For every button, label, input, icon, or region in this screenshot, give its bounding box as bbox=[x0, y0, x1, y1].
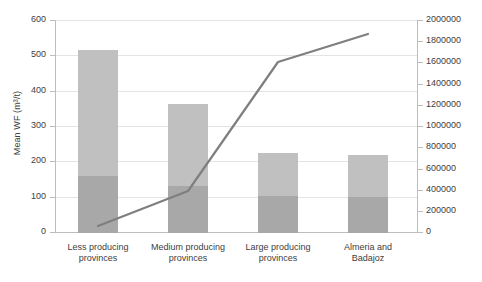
tickmark-right-200000 bbox=[417, 211, 423, 212]
ytick-label-right-1200000: 1200000 bbox=[426, 100, 461, 109]
tickmark-left-600 bbox=[50, 20, 56, 21]
ytick-label-left-100: 100 bbox=[8, 192, 46, 201]
ytick-label-left-600: 600 bbox=[8, 15, 46, 24]
y-axis-title-left: Mean WF (m³/t) bbox=[12, 68, 22, 178]
tickmark-right-600000 bbox=[417, 169, 423, 170]
xtick-label-medium-producing: Medium producing provinces bbox=[143, 242, 233, 264]
tickmark-right-400000 bbox=[417, 190, 423, 191]
bar-segment-lower-large-producing bbox=[258, 196, 298, 233]
ytick-label-right-1000000: 1000000 bbox=[426, 121, 461, 130]
xtick-label-large-producing: Large producing provinces bbox=[235, 242, 321, 264]
production-line-series bbox=[0, 0, 482, 282]
bar-segment-upper-large-producing bbox=[258, 153, 298, 196]
gridline-600 bbox=[56, 20, 417, 21]
tickmark-left-0 bbox=[50, 232, 56, 233]
tickmark-right-1000000 bbox=[417, 126, 423, 127]
ytick-label-right-0: 0 bbox=[426, 227, 431, 236]
bar-segment-upper-less-producing bbox=[78, 50, 118, 176]
chart-container: 600 500 400 300 200 100 0 2000000 180000… bbox=[0, 0, 482, 282]
xtick-label-almeria-badajoz: Almeria and Badajoz bbox=[325, 242, 411, 264]
ytick-label-right-2000000: 2000000 bbox=[426, 15, 461, 24]
tickmark-right-800000 bbox=[417, 147, 423, 148]
ytick-label-right-1600000: 1600000 bbox=[426, 57, 461, 66]
ytick-label-right-200000: 200000 bbox=[426, 206, 456, 215]
ytick-label-left-500: 500 bbox=[8, 50, 46, 59]
bar-segment-lower-less-producing bbox=[78, 176, 118, 233]
tickmark-right-0 bbox=[417, 232, 423, 233]
bar-segment-upper-medium-producing bbox=[168, 104, 208, 186]
ytick-label-right-400000: 400000 bbox=[426, 185, 456, 194]
bar-segment-lower-almeria-badajoz bbox=[348, 197, 388, 233]
tickmark-right-1800000 bbox=[417, 41, 423, 42]
xtick-label-less-producing: Less producing provinces bbox=[55, 242, 141, 264]
tickmark-left-200 bbox=[50, 161, 56, 162]
tickmark-left-100 bbox=[50, 197, 56, 198]
tickmark-left-300 bbox=[50, 126, 56, 127]
bar-segment-upper-almeria-badajoz bbox=[348, 155, 388, 197]
tickmark-right-1400000 bbox=[417, 84, 423, 85]
ytick-label-right-600000: 600000 bbox=[426, 164, 456, 173]
ytick-label-right-1400000: 1400000 bbox=[426, 79, 461, 88]
tickmark-right-2000000 bbox=[417, 20, 423, 21]
tickmark-left-400 bbox=[50, 91, 56, 92]
ytick-label-right-800000: 800000 bbox=[426, 142, 456, 151]
tickmark-right-1600000 bbox=[417, 62, 423, 63]
ytick-label-right-1800000: 1800000 bbox=[426, 36, 461, 45]
tickmark-left-500 bbox=[50, 55, 56, 56]
tickmark-right-1200000 bbox=[417, 105, 423, 106]
ytick-label-left-0: 0 bbox=[8, 227, 46, 236]
bar-segment-lower-medium-producing bbox=[168, 186, 208, 233]
